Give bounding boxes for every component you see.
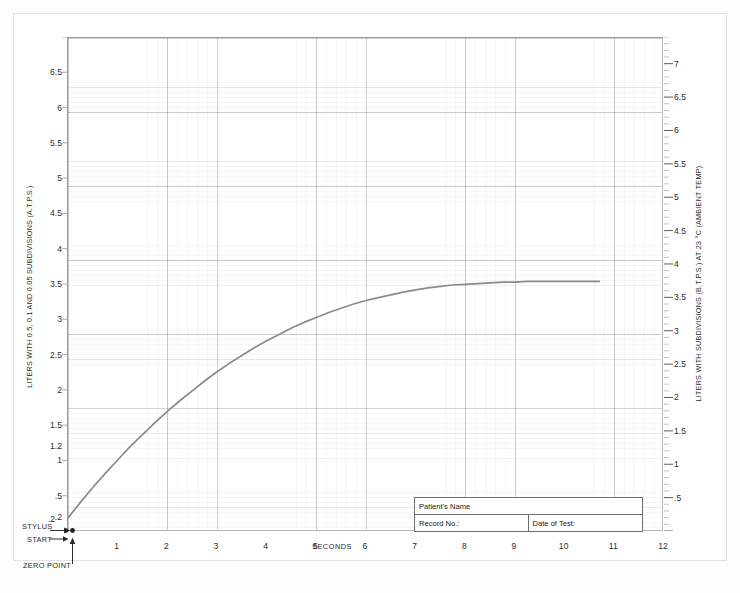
patients-name-field[interactable]: Patient's Name bbox=[415, 498, 642, 514]
start-label: START bbox=[27, 535, 52, 544]
patient-info-row-name: Patient's Name bbox=[415, 498, 642, 515]
stylus-label: STYLUS bbox=[22, 522, 53, 531]
date-of-test-field[interactable]: Date of Test: bbox=[529, 515, 643, 532]
patient-info-box[interactable]: Patient's Name Record No.: Date of Test: bbox=[414, 497, 643, 532]
chart-sheet: 6.565.554.543.532.521.51.21.5.2 76.565.5… bbox=[0, 0, 740, 593]
origin-marker-arrows bbox=[50, 516, 100, 576]
patient-info-row-record: Record No.: Date of Test: bbox=[415, 515, 642, 532]
record-number-field[interactable]: Record No.: bbox=[415, 515, 529, 532]
